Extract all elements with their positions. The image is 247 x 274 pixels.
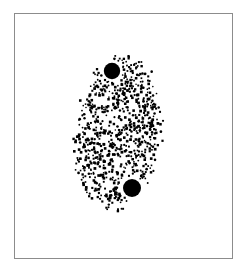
stipple-illustration-canvas: [0, 0, 247, 274]
figure-root: [0, 0, 247, 274]
